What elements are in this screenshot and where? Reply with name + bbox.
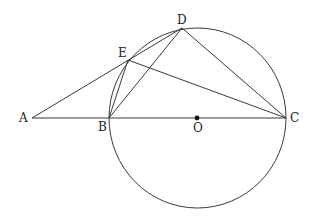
segment-ad [32, 28, 182, 118]
segment-be [109, 60, 128, 118]
label-d: D [177, 13, 187, 27]
segment-ec [128, 60, 286, 118]
label-b: B [98, 120, 107, 134]
center-point-o [195, 116, 200, 121]
segment-dc [182, 28, 286, 118]
label-o: O [193, 121, 203, 135]
label-c: C [290, 111, 299, 125]
label-a: A [18, 111, 28, 125]
label-e: E [118, 46, 127, 60]
diagram-canvas: A B O C D E [0, 0, 312, 222]
geometry-diagram: A B O C D E [0, 0, 312, 222]
segment-bd [109, 28, 182, 118]
